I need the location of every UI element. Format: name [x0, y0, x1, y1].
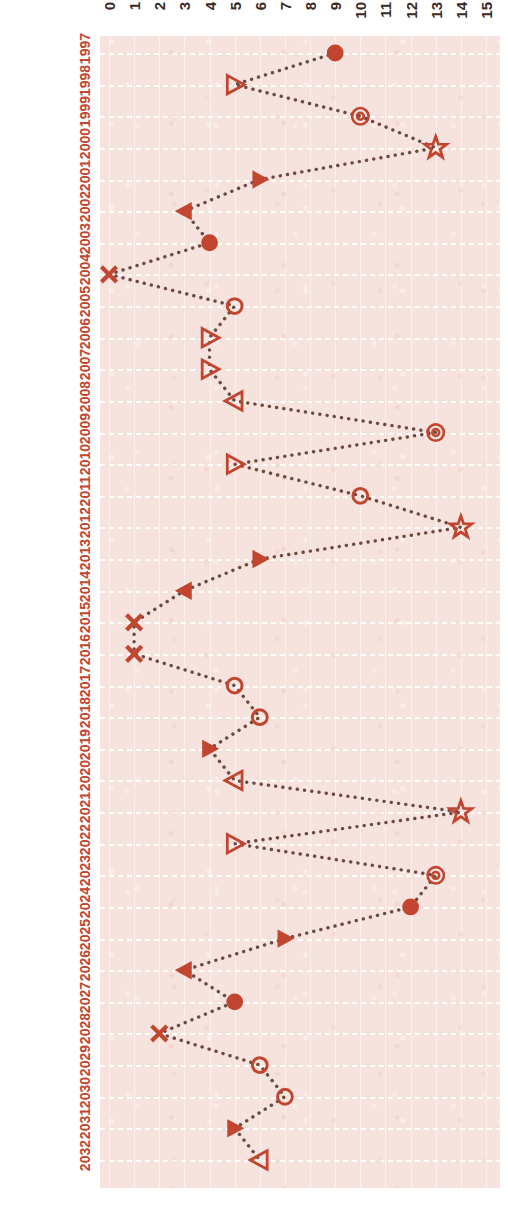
- data-point-filled-left-triangle: [175, 581, 192, 599]
- y-tick-label: 2025: [78, 919, 92, 950]
- y-tick-label: 2002: [78, 191, 92, 222]
- y-tick-label: 2030: [78, 1077, 92, 1108]
- y-tick-label: 2006: [78, 318, 92, 349]
- y-tick-label: 2017: [78, 666, 92, 697]
- data-point-filled-circle: [402, 899, 419, 916]
- data-point-open-right-triangle: [227, 75, 244, 93]
- y-tick-label: 2032: [78, 1140, 92, 1171]
- x-tick-label: 4: [203, 2, 218, 10]
- y-tick-label: 2004: [78, 254, 92, 285]
- data-point-open-star: [425, 136, 447, 157]
- y-tick-label: 2021: [78, 792, 92, 823]
- y-tick-label: 2007: [78, 349, 92, 380]
- data-point-filled-right-triangle: [227, 1119, 244, 1137]
- data-point-filled-circle: [327, 45, 344, 62]
- x-tick-label: 7: [278, 2, 293, 10]
- x-tick-label: 10: [353, 2, 368, 19]
- figure-root: 0123456789101112131415 19971998199920002…: [0, 0, 508, 1205]
- data-point-filled-left-triangle: [175, 202, 192, 220]
- x-tick-label: 15: [479, 2, 494, 19]
- y-tick-label: 2024: [78, 887, 92, 918]
- x-tick-label: 14: [454, 2, 469, 19]
- x-tick-label: 6: [253, 2, 268, 10]
- x-tick-label: 5: [228, 2, 243, 10]
- x-tick-label: 11: [378, 2, 393, 18]
- y-tick-label: 2000: [78, 128, 92, 159]
- data-point-filled-right-triangle: [252, 170, 269, 188]
- data-point-filled-right-triangle: [252, 550, 269, 568]
- data-point-filled-circle: [226, 993, 243, 1010]
- y-tick-label: 2015: [78, 602, 92, 633]
- y-tick-label: 2027: [78, 982, 92, 1013]
- data-point-open-star: [450, 801, 472, 822]
- y-tick-label: 2013: [78, 539, 92, 570]
- data-point-filled-left-triangle: [175, 961, 192, 979]
- data-point-filled-right-triangle: [278, 929, 295, 947]
- y-tick-label: 2009: [78, 413, 92, 444]
- x-tick-label: 2: [152, 2, 167, 10]
- y-tick-label: 2022: [78, 824, 92, 855]
- data-point-open-circle: [252, 710, 267, 725]
- x-tick-label: 9: [328, 2, 343, 10]
- y-tick-label: 2001: [78, 160, 92, 191]
- y-tick-label: 2026: [78, 950, 92, 981]
- y-tick-label: 2020: [78, 760, 92, 791]
- data-point-open-circle: [252, 1058, 267, 1073]
- y-tick-label: 1999: [78, 96, 92, 127]
- y-tick-label: 2014: [78, 571, 92, 602]
- x-tick-label: 13: [429, 2, 444, 19]
- series-line: [109, 53, 461, 1160]
- data-point-filled-circle: [201, 234, 218, 251]
- x-tick-label: 8: [303, 2, 318, 10]
- y-tick-label: 2016: [78, 634, 92, 665]
- y-tick-label: 2011: [78, 476, 92, 506]
- data-point-open-left-triangle: [250, 1151, 267, 1169]
- y-tick-label: 2029: [78, 1045, 92, 1076]
- y-axis: 1997199819992000200120022003200420052006…: [0, 36, 100, 1186]
- y-tick-label: 2008: [78, 381, 92, 412]
- y-tick-label: 2003: [78, 223, 92, 254]
- x-tick-label: 1: [127, 2, 142, 10]
- y-tick-label: 2005: [78, 286, 92, 317]
- y-tick-label: 2010: [78, 444, 92, 475]
- x-tick-label: 0: [102, 2, 117, 10]
- series-layer: [100, 36, 500, 1188]
- y-tick-label: 2018: [78, 697, 92, 728]
- plot-area: [100, 36, 500, 1188]
- x-tick-label: 3: [177, 2, 192, 10]
- y-tick-label: 2031: [78, 1108, 92, 1139]
- data-point-x-cross: [101, 267, 116, 282]
- x-tick-label: 12: [404, 2, 419, 19]
- data-point-x-cross: [152, 1026, 167, 1041]
- y-tick-label: 2028: [78, 1013, 92, 1044]
- y-tick-label: 2012: [78, 507, 92, 538]
- y-tick-label: 2023: [78, 855, 92, 886]
- y-tick-label: 2019: [78, 729, 92, 760]
- y-tick-label: 1998: [78, 65, 92, 96]
- y-tick-label: 1997: [78, 33, 92, 64]
- x-axis: 0123456789101112131415: [0, 0, 508, 36]
